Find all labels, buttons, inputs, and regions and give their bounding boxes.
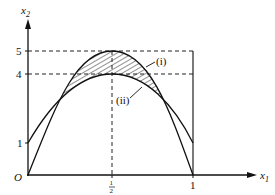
curve-ii-label: (ii) [116,94,130,107]
y-tick-1: 1 [17,137,23,149]
y-axis-arrow-icon [25,19,31,29]
svg-text:2: 2 [110,187,114,195]
y-axis-label: x2 [20,4,30,19]
shaded-region [28,0,193,143]
x-axis-arrow-icon [247,172,257,178]
leader-i [146,62,155,67]
svg-text:1: 1 [110,179,114,187]
x-axis-label: x1 [259,169,269,184]
x-tick-half: 1 2 [109,179,115,195]
x-tick-1: 1 [190,179,196,191]
leader-ii [130,87,142,98]
y-tick-5: 5 [16,45,22,57]
y-tick-4: 4 [16,68,22,80]
origin-label: O [14,171,22,183]
curve-i-label: (i) [156,55,167,68]
axes [27,26,250,176]
diagram: x2 x1 O 5 4 1 1 2 1 (i) (ii) [0,0,275,195]
